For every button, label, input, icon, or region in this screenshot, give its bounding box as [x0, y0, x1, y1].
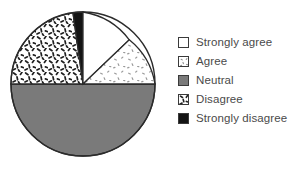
legend: Strongly agree Agree Neutral: [178, 33, 294, 128]
legend-item-disagree[interactable]: Disagree: [178, 90, 294, 109]
legend-label: Strongly disagree: [196, 112, 287, 125]
legend-item-strongly-agree[interactable]: Strongly agree: [178, 33, 294, 52]
pie-slice-neutral: [11, 84, 155, 156]
pie-slice-disagree: [11, 13, 83, 84]
swatch-white-icon: [178, 37, 189, 48]
swatch-light-speckle-icon: [178, 56, 189, 67]
legend-label: Agree: [196, 55, 227, 68]
legend-item-agree[interactable]: Agree: [178, 52, 294, 71]
pie-chart-figure: Strongly agree Agree Neutral: [0, 0, 294, 170]
legend-item-strongly-disagree[interactable]: Strongly disagree: [178, 109, 294, 128]
swatch-gray-icon: [178, 75, 189, 86]
legend-label: Neutral: [196, 74, 234, 87]
pie-chart-plot: [0, 0, 170, 170]
swatch-dark-dash-icon: [178, 94, 189, 105]
light-speckle-glyph: [179, 57, 189, 67]
dark-dash-glyph: [179, 95, 189, 105]
legend-item-neutral[interactable]: Neutral: [178, 71, 294, 90]
legend-label: Disagree: [196, 93, 243, 106]
pie-svg: [0, 0, 170, 170]
legend-label: Strongly agree: [196, 36, 272, 49]
swatch-black-icon: [178, 113, 189, 124]
